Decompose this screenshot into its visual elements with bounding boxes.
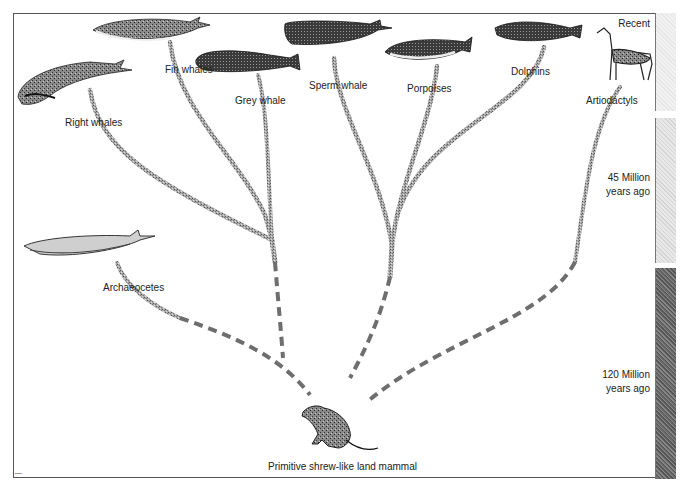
artist-signature: ▪▪▪▪▪ xyxy=(15,471,22,476)
shrew-icon xyxy=(302,406,378,450)
branch-basal-center xyxy=(390,245,392,277)
archaeocete-icon xyxy=(24,230,155,255)
timescale-120my-segment xyxy=(655,268,676,479)
dolphin-icon xyxy=(495,22,582,41)
branch-basal-left xyxy=(272,240,275,262)
timescale-45my-segment xyxy=(655,118,676,263)
timescale-label-recent: Recent xyxy=(600,18,650,30)
branches-dashed xyxy=(180,262,575,402)
right-whale-icon xyxy=(18,60,132,104)
label-dolphins: Dolphins xyxy=(511,66,550,78)
label-fin-whales: Fin whales xyxy=(165,64,213,76)
label-right-whales: Right whales xyxy=(65,117,122,129)
fin-whale-icon xyxy=(93,17,210,40)
label-grey-whale: Grey whale xyxy=(235,95,286,107)
label-archaeocetes: Archaeocetes xyxy=(103,282,164,294)
porpoise-icon xyxy=(385,37,472,59)
phylogeny-canvas xyxy=(0,0,688,489)
label-artiodactyls: Artiodactyls xyxy=(586,95,638,107)
label-root: Primitive shrew-like land mammal xyxy=(268,461,417,473)
label-porpoises: Porpoises xyxy=(407,83,451,95)
artiodactyl-icon xyxy=(597,28,652,80)
sperm-whale-icon xyxy=(285,20,392,44)
timescale-label-45my-line2: years ago xyxy=(580,186,650,198)
branch-right-whales xyxy=(90,90,272,240)
label-sperm-whale: Sperm whale xyxy=(309,80,367,92)
dashed-basal-left xyxy=(275,262,283,358)
dashed-basal-center xyxy=(350,277,390,378)
dashed-artiodactyls xyxy=(367,262,575,402)
timescale-label-120my-line1: 120 Million xyxy=(580,369,650,381)
timescale-label-120my-line2: years ago xyxy=(580,383,650,395)
dashed-archaeocetes xyxy=(180,318,310,395)
timescale-label-45my-line1: 45 Million xyxy=(580,172,650,184)
timescale-recent-segment xyxy=(655,13,676,111)
